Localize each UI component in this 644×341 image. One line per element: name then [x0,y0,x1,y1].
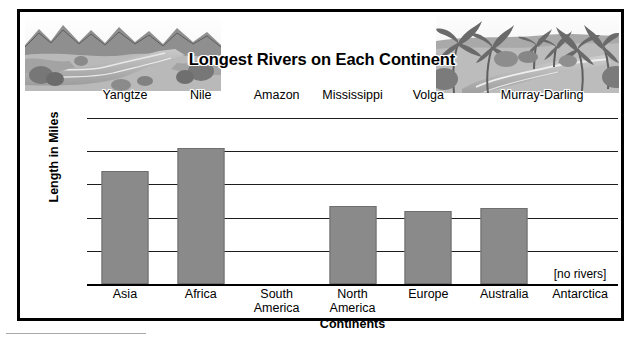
river-name-row: Yangtze Nile Amazon Mississippi Volga Mu… [87,86,618,104]
x-axis-label: South America [239,287,315,315]
no-rivers-annotation: [no rivers] [553,267,608,281]
bar-series: [no rivers] [87,118,618,284]
river-label: Nile [163,86,239,104]
x-axis-label: Europe [390,287,466,315]
chart-frame: Longest Rivers on Each Continent Yangtze… [17,9,624,321]
river-label: Yangtze [87,86,163,104]
bar-slot [390,118,466,284]
y-axis-title: Length in Miles [47,87,61,227]
chart-page: Longest Rivers on Each Continent Yangtze… [0,0,644,341]
bar-slot [163,118,239,284]
x-axis-title: Continents [87,317,618,331]
x-axis-label: Asia [87,287,163,315]
axis-baseline [87,284,618,286]
chart-title: Longest Rivers on Each Continent [20,50,624,69]
river-label: Murray-Darling [466,86,618,104]
x-axis-label: North America [315,287,391,315]
bar-slot [315,118,391,284]
x-axis-label: Africa [163,287,239,315]
x-axis-label: Antarctica [542,287,618,315]
bar [329,206,376,284]
bar [101,171,148,284]
bar-slot: [no rivers] [542,118,618,284]
river-label: Volga [390,86,466,104]
x-axis-labels: AsiaAfricaSouth AmericaNorth AmericaEuro… [87,287,618,315]
x-axis-label: Australia [466,287,542,315]
bar-slot [87,118,163,284]
bar [405,211,452,284]
bar-slot [239,118,315,284]
plot-area: 01,0002,0003,0004,0005,000 [no rivers] [87,118,618,284]
bar-slot [466,118,542,284]
bar [177,148,224,284]
bar [481,208,528,284]
footer-rule [6,333,146,334]
river-label: Amazon [239,86,315,104]
river-label: Mississippi [315,86,391,104]
